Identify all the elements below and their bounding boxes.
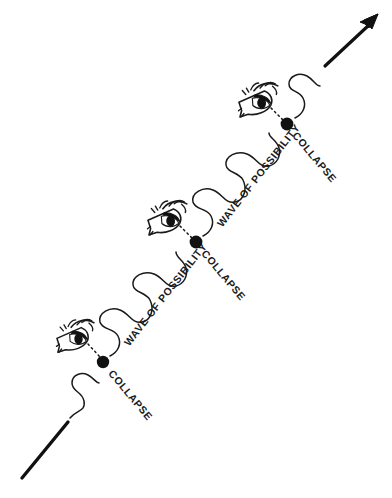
quantum-collapse-diagram: COLLAPSE WAVE OF POSSIBILITY COLLAPSE WA…	[0, 0, 392, 498]
sightline-2	[180, 226, 192, 238]
collapse-label-2: COLLAPSE	[199, 247, 248, 302]
sightline-1	[88, 344, 100, 357]
wave-label-2: WAVE OF POSSIBILITY	[214, 121, 302, 229]
collapse-label-1: COLLAPSE	[106, 367, 155, 422]
sightline-3	[271, 108, 283, 120]
figure-canvas: COLLAPSE WAVE OF POSSIBILITY COLLAPSE WA…	[0, 0, 392, 498]
axis-arrow-shaft	[325, 25, 369, 66]
collapse-label-3: COLLAPSE	[290, 129, 339, 184]
observer-eye-1	[55, 319, 96, 353]
axis-start-segment	[22, 422, 68, 478]
wave-segment-3	[289, 74, 320, 118]
collapse-dot-1	[97, 356, 109, 368]
wave-segment-0	[70, 374, 99, 418]
wave-segment-2	[193, 133, 280, 236]
wave-segment-1	[100, 252, 187, 356]
observer-eye-2	[146, 200, 189, 235]
wave-label-1: WAVE OF POSSIBILITY	[121, 240, 209, 348]
observer-eye-3	[237, 82, 280, 117]
